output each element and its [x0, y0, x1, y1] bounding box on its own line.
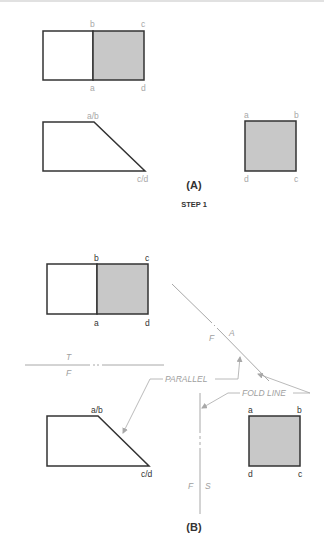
label-b: b [94, 253, 99, 263]
caption-b: (B) [186, 521, 202, 533]
parallel-label: PARALLEL [165, 374, 208, 384]
orthographic-projection-diagram: b c a d a/b c/d a b d c (A) STEP 1 b c [0, 0, 324, 533]
label-c: c [145, 253, 150, 263]
step-label: STEP 1 [181, 200, 207, 209]
part-b-front-view: a/b c/d [47, 405, 153, 479]
parallel-leader-to-fold [215, 357, 240, 379]
top-view-inclined-surface [93, 31, 144, 80]
fold-label-s: S [205, 481, 211, 491]
front-view-trapezoid [47, 416, 149, 466]
part-a: b c a d a/b c/d a b d c (A) STEP 1 [43, 19, 299, 209]
label-cd: c/d [137, 174, 149, 184]
label-c: c [294, 174, 299, 184]
part-a-front-view: a/b c/d [43, 111, 149, 184]
label-a: a [94, 318, 99, 328]
fold-line-front-side: F S [188, 393, 211, 514]
label-a: a [248, 405, 253, 415]
top-view-unshaded-half [47, 264, 97, 314]
part-b: b c a d F A T F PARALLEL [25, 253, 310, 533]
top-view-unshaded-half [43, 31, 93, 80]
fold-label-t: T [66, 352, 72, 362]
side-view-square [249, 416, 300, 466]
label-d: d [145, 318, 150, 328]
part-a-side-view: a b d c [244, 110, 299, 184]
fold-line-label: FOLD LINE [242, 388, 286, 398]
fold-label-a: A [228, 328, 235, 338]
fold-label-f: F [188, 481, 194, 491]
fold-line-front-auxiliary: F A [172, 284, 269, 381]
label-c: c [298, 469, 303, 479]
front-view-trapezoid [43, 122, 145, 171]
parallel-annotation: PARALLEL [123, 357, 240, 433]
fold-label-f: F [66, 368, 72, 378]
fold-label-f: F [209, 333, 215, 343]
label-a: a [90, 83, 95, 93]
label-a: a [244, 110, 249, 120]
part-a-top-view: b c a d [43, 19, 146, 93]
label-d: d [244, 174, 249, 184]
fold-line-leader-to-vertical [202, 393, 240, 408]
label-b: b [297, 405, 302, 415]
label-c: c [141, 19, 146, 29]
side-view-square [245, 121, 296, 171]
label-ab: a/b [87, 111, 99, 121]
label-d: d [141, 83, 146, 93]
caption-a: (A) [186, 179, 202, 191]
label-cd: c/d [141, 469, 153, 479]
label-b: b [90, 19, 95, 29]
parallel-leader-to-edge [123, 379, 163, 433]
top-view-inclined-surface [97, 264, 148, 314]
label-b: b [294, 110, 299, 120]
label-ab: a/b [91, 405, 103, 415]
part-b-top-view: b c a d [47, 253, 150, 328]
fold-line-top-front: T F [25, 352, 164, 378]
part-b-side-view: a b d c [248, 405, 303, 479]
label-d: d [248, 469, 253, 479]
